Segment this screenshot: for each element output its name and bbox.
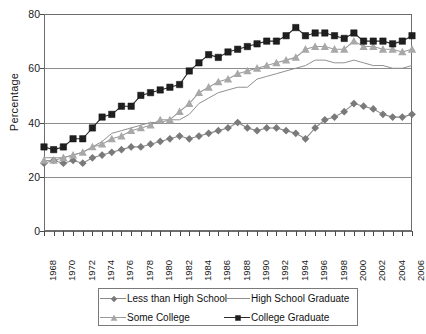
x-axis-tick-label: 1990 bbox=[261, 260, 271, 281]
x-axis-tick-label: 1986 bbox=[222, 260, 232, 281]
legend-label: High School Graduate bbox=[251, 293, 349, 304]
legend-item-some-college[interactable]: Some College bbox=[99, 308, 223, 327]
x-axis-tick-mark bbox=[189, 231, 190, 236]
legend-marker-diamond-icon bbox=[99, 293, 127, 305]
x-axis-tick-label: 1976 bbox=[125, 260, 135, 281]
x-axis-tick-mark bbox=[102, 231, 103, 236]
legend-item-less-than-high-school[interactable]: Less than High School bbox=[99, 289, 223, 308]
x-axis-tick-mark bbox=[305, 231, 306, 236]
x-axis-labels: 1968197019721974197619781980198219841986… bbox=[44, 237, 413, 283]
x-axis-tick-label: 1974 bbox=[106, 260, 116, 281]
x-axis-tick-mark bbox=[325, 231, 326, 236]
x-axis-tick-mark bbox=[209, 231, 210, 236]
x-axis-tick-label: 1968 bbox=[48, 260, 58, 281]
legend-marker-square-icon bbox=[223, 312, 251, 324]
legend-label: Some College bbox=[127, 312, 190, 323]
x-axis-tick-mark bbox=[247, 231, 248, 236]
gridline bbox=[45, 123, 411, 124]
x-axis-tick-label: 1978 bbox=[145, 260, 155, 281]
gridline bbox=[45, 68, 411, 69]
x-axis-tick-mark bbox=[44, 231, 45, 236]
legend-item-college-graduate[interactable]: College Graduate bbox=[223, 308, 359, 327]
x-axis-tick-label: 1984 bbox=[203, 260, 213, 281]
x-axis-tick-mark bbox=[344, 231, 345, 236]
x-axis-tick-mark bbox=[73, 231, 74, 236]
x-axis-tick-label: 1972 bbox=[87, 260, 97, 281]
x-axis-tick-mark bbox=[373, 231, 374, 236]
x-axis-tick-mark bbox=[402, 231, 403, 236]
x-axis-tick-label: 1994 bbox=[300, 260, 310, 281]
legend-item-high-school-graduate[interactable]: High School Graduate bbox=[223, 289, 359, 308]
x-axis-tick-mark bbox=[286, 231, 287, 236]
x-axis-tick-label: 1988 bbox=[242, 260, 252, 281]
x-axis-tick-mark bbox=[141, 231, 142, 236]
x-axis-tick-label: 2004 bbox=[397, 260, 407, 281]
x-axis-tick-mark bbox=[160, 231, 161, 236]
x-axis-tick-mark bbox=[151, 231, 152, 236]
x-axis-tick-mark bbox=[267, 231, 268, 236]
y-axis-tick-label: 20 bbox=[6, 172, 40, 182]
x-axis-tick-mark bbox=[296, 231, 297, 236]
legend-label: Less than High School bbox=[127, 293, 227, 304]
legend-label: College Graduate bbox=[251, 312, 329, 323]
x-axis-tick-label: 2000 bbox=[358, 260, 368, 281]
x-axis-tick-mark bbox=[170, 231, 171, 236]
x-axis-tick-mark bbox=[354, 231, 355, 236]
x-axis-tick-mark bbox=[364, 231, 365, 236]
x-axis-tick-mark bbox=[393, 231, 394, 236]
x-axis-tick-mark bbox=[54, 231, 55, 236]
legend-marker-none-icon bbox=[223, 293, 251, 305]
chart-footnote bbox=[0, 327, 424, 334]
x-axis-tick-label: 1970 bbox=[67, 260, 77, 281]
x-axis-tick-label: 1992 bbox=[280, 260, 290, 281]
x-axis-tick-mark bbox=[228, 231, 229, 236]
x-axis-tick-label: 2006 bbox=[416, 260, 426, 281]
plot-area bbox=[44, 14, 412, 231]
x-axis-tick-mark bbox=[112, 231, 113, 236]
x-axis-tick-mark bbox=[238, 231, 239, 236]
x-axis-tick-label: 1982 bbox=[184, 260, 194, 281]
x-axis-tick-mark bbox=[383, 231, 384, 236]
x-axis-tick-mark bbox=[131, 231, 132, 236]
x-axis-tick-label: 1996 bbox=[319, 260, 329, 281]
x-axis-tick-mark bbox=[412, 231, 413, 236]
x-axis-tick-mark bbox=[63, 231, 64, 236]
y-axis-ticks: 020406080 bbox=[0, 0, 40, 334]
legend-marker-triangle-icon bbox=[99, 312, 127, 324]
x-axis-tick-mark bbox=[199, 231, 200, 236]
chart-legend: Less than High SchoolHigh School Graduat… bbox=[98, 288, 358, 326]
gridline bbox=[45, 177, 411, 178]
x-axis-tick-mark bbox=[121, 231, 122, 236]
x-axis-tick-label: 1980 bbox=[164, 260, 174, 281]
y-axis-line bbox=[44, 14, 45, 232]
x-axis-tick-mark bbox=[257, 231, 258, 236]
y-axis-tick-label: 80 bbox=[6, 9, 40, 19]
x-axis-tick-mark bbox=[276, 231, 277, 236]
x-axis-tick-mark bbox=[218, 231, 219, 236]
x-axis-tick-label: 1998 bbox=[339, 260, 349, 281]
y-axis-tick-label: 40 bbox=[6, 118, 40, 128]
y-axis-tick-label: 60 bbox=[6, 63, 40, 73]
x-axis-tick-mark bbox=[335, 231, 336, 236]
y-axis-tick-label: 0 bbox=[6, 226, 40, 236]
x-axis-tick-mark bbox=[92, 231, 93, 236]
x-axis-tick-mark bbox=[83, 231, 84, 236]
x-axis-tick-mark bbox=[180, 231, 181, 236]
x-axis-tick-mark bbox=[315, 231, 316, 236]
x-axis-tick-label: 2002 bbox=[377, 260, 387, 281]
